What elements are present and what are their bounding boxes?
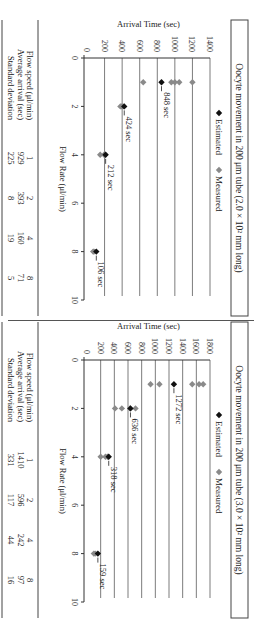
annotation-label: 212 sec (106, 165, 116, 191)
y-tick-label: 0 (82, 350, 91, 354)
table-cell: 44 (6, 536, 16, 545)
annotation-label: 318 sec (109, 467, 119, 493)
data-points: 1272 sec636 sec318 sec159 sec (91, 381, 207, 590)
y-tick-label: 1400 (205, 36, 214, 52)
panel-3mm-tube: Oocyte movement in 200 μm tube (3.0 × 10… (0, 320, 252, 620)
y-tick-label: 400 (109, 342, 118, 354)
y-tick-label: 800 (152, 40, 161, 52)
x-axis-label: Flow Rate (μl/min) (58, 146, 68, 212)
y-tick-label: 800 (137, 342, 146, 354)
estimated-point (158, 79, 164, 85)
measured-point (189, 381, 195, 387)
measured-point (168, 79, 174, 85)
x-tick-label: 2 (70, 104, 79, 108)
panel-2mm-tube: Oocyte movement in 200 μm tube (2.0 × 10… (0, 18, 252, 318)
x-tick-label: 8 (70, 250, 79, 254)
legend: EstimatedMeasured (214, 110, 224, 212)
measured-point (112, 405, 118, 411)
table-cell: 8 (25, 578, 35, 582)
x-tick-label: 8 (70, 552, 79, 556)
table-row-label: Standard deviation (6, 358, 16, 423)
y-tick-label: 1000 (150, 338, 159, 354)
chart-title: Oocyte movement in 200 μm tube (2.0 × 10… (233, 63, 244, 272)
measured-point (189, 79, 195, 85)
table-cell: 71 (16, 274, 26, 283)
estimated-marker-icon (216, 110, 222, 116)
legend: EstimatedMeasured (214, 412, 224, 514)
legend-estimated: Estimated (214, 119, 224, 155)
annotation-label: 1272 sec (174, 394, 184, 424)
data-points: 848 sec424 sec212 sec106 sec (90, 79, 196, 288)
legend-measured: Measured (214, 478, 224, 514)
table-cell: 596 (16, 494, 26, 507)
x-tick-label: 0 (70, 358, 79, 362)
x-tick-label: 6 (70, 201, 79, 205)
table-row-label: Flow speed (μl/min) (25, 353, 35, 422)
y-tick-label: 1200 (187, 36, 196, 52)
table-cell: 331 (6, 454, 16, 467)
x-tick-label: 10 (70, 296, 79, 304)
chart-2mm-tube: Oocyte movement in 200 μm tube (2.0 × 10… (0, 18, 252, 318)
table-cell: 4 (25, 236, 35, 241)
table-cell: 8 (25, 276, 35, 280)
summary-table: Flow speed (μl/min)1248Average arrival (… (2, 20, 38, 316)
table-row-label: Average arrival (sec) (16, 351, 26, 422)
table-cell: 1 (25, 156, 35, 160)
legend-estimated: Estimated (214, 421, 224, 457)
y-tick-label: 200 (96, 342, 105, 354)
measured-point (97, 152, 103, 158)
y-tick-label: 600 (135, 40, 144, 52)
y-axis-label: Arrival Time (sec) (117, 19, 180, 29)
table-row-label: Standard deviation (6, 56, 16, 121)
table-cell: 160 (16, 232, 26, 245)
table-cell: 1410 (16, 452, 26, 469)
x-tick-label: 0 (70, 56, 79, 60)
annotation-label: 424 sec (124, 116, 134, 142)
annotation-label: 106 sec (96, 262, 106, 288)
annotation-label: 848 sec (162, 92, 172, 118)
table-cell: 19 (6, 234, 16, 243)
measured-marker-icon (216, 167, 222, 173)
table-cell: 393 (16, 192, 26, 205)
table-cell: 4 (25, 538, 35, 543)
table-cell: 225 (6, 152, 16, 165)
y-tick-label: 600 (123, 342, 132, 354)
measured-marker-icon (216, 469, 222, 475)
annotation-label: 159 sec (98, 564, 108, 590)
chart-3mm-tube: Oocyte movement in 200 μm tube (3.0 × 10… (0, 320, 252, 620)
y-tick-label: 1200 (164, 338, 173, 354)
table-row-label: Average arrival (sec) (16, 49, 26, 120)
table-cell: 2 (25, 196, 35, 200)
table-cell: 97 (16, 576, 26, 585)
y-tick-label: 1600 (191, 338, 200, 354)
y-tick-label: 1800 (205, 338, 214, 354)
y-tick-label: 1400 (178, 338, 187, 354)
table-cell: 1 (25, 458, 35, 462)
table-cell: 5 (6, 276, 16, 280)
table-cell: 2 (25, 498, 35, 502)
measured-point (196, 381, 202, 387)
y-tick-label: 0 (82, 48, 91, 52)
figure: Oocyte movement in 200 μm tube (2.0 × 10… (0, 0, 261, 641)
measured-point (156, 381, 162, 387)
legend-measured: Measured (214, 176, 224, 212)
x-tick-label: 2 (70, 406, 79, 410)
x-tick-label: 6 (70, 503, 79, 507)
chart-title: Oocyte movement in 200 μm tube (3.0 × 10… (233, 365, 244, 574)
y-tick-label: 200 (100, 40, 109, 52)
table-cell: 117 (6, 494, 16, 506)
x-tick-label: 10 (70, 598, 79, 606)
table-row-label: Flow speed (μl/min) (25, 51, 35, 120)
table-cell: 16 (6, 576, 16, 585)
measured-point (119, 405, 125, 411)
y-tick-label: 1000 (170, 36, 179, 52)
estimated-marker-icon (216, 412, 222, 418)
table-cell: 8 (6, 196, 16, 200)
summary-table: Flow speed (μl/min)1248Average arrival (… (2, 322, 38, 618)
estimated-point (106, 454, 112, 460)
table-cell: 242 (16, 534, 26, 547)
y-tick-label: 400 (117, 40, 126, 52)
measured-point (147, 381, 153, 387)
estimated-point (171, 381, 177, 387)
table-cell: 929 (16, 152, 26, 165)
